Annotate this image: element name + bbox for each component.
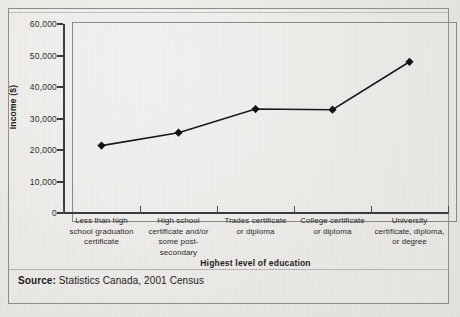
x-category-label-line: or diploma bbox=[296, 227, 369, 238]
x-category-label-line: or degree bbox=[373, 237, 446, 248]
data-series-line bbox=[63, 13, 448, 214]
x-axis-title: Highest level of education bbox=[63, 258, 448, 268]
x-category-label: Trades certificateor diploma bbox=[217, 216, 294, 258]
data-point-marker bbox=[328, 106, 336, 114]
y-axis-title: Income ($) bbox=[8, 85, 18, 130]
data-point-marker bbox=[405, 58, 413, 66]
x-tick-mark bbox=[448, 206, 449, 214]
y-tick-label: 30,000 bbox=[30, 114, 57, 124]
x-category-label: High schoolcertificate and/orsome post-s… bbox=[140, 216, 217, 258]
data-point-marker bbox=[251, 105, 259, 113]
y-tick-label: 10,000 bbox=[30, 177, 57, 187]
x-category-label-line: certificate, diploma, bbox=[373, 227, 446, 238]
data-point-marker bbox=[97, 141, 105, 149]
x-axis-category-labels: Less than highschool graduationcertifica… bbox=[63, 216, 448, 258]
source-divider bbox=[9, 269, 448, 270]
y-tick-label: 40,000 bbox=[30, 82, 57, 92]
x-category-label-line: University bbox=[373, 216, 446, 227]
x-category-label-line: Less than high bbox=[65, 216, 138, 227]
source-note: Source: Statistics Canada, 2001 Census bbox=[18, 275, 204, 286]
x-category-label: College certificateor diploma bbox=[294, 216, 371, 258]
x-category-label-line: High school bbox=[142, 216, 215, 227]
x-category-label-line: certificate and/or bbox=[142, 227, 215, 238]
x-category-label-line: some post-secondary bbox=[142, 237, 215, 258]
x-category-label-line: certificate bbox=[65, 237, 138, 248]
x-category-label-line: school graduation bbox=[65, 227, 138, 238]
series-line bbox=[102, 62, 410, 146]
x-category-label-line: College certificate bbox=[296, 216, 369, 227]
x-category-label: Universitycertificate, diploma,or degree bbox=[371, 216, 448, 258]
x-category-label-line: Trades certificate bbox=[219, 216, 292, 227]
source-text: Statistics Canada, 2001 Census bbox=[59, 275, 204, 286]
x-category-label: Less than highschool graduationcertifica… bbox=[63, 216, 140, 258]
data-point-marker bbox=[174, 129, 182, 137]
source-label: Source: bbox=[18, 275, 56, 286]
y-tick-label: 60,000 bbox=[30, 19, 57, 29]
y-tick-label: 50,000 bbox=[30, 51, 57, 61]
y-tick-label: 20,000 bbox=[30, 145, 57, 155]
x-category-label-line: or diploma bbox=[219, 227, 292, 238]
